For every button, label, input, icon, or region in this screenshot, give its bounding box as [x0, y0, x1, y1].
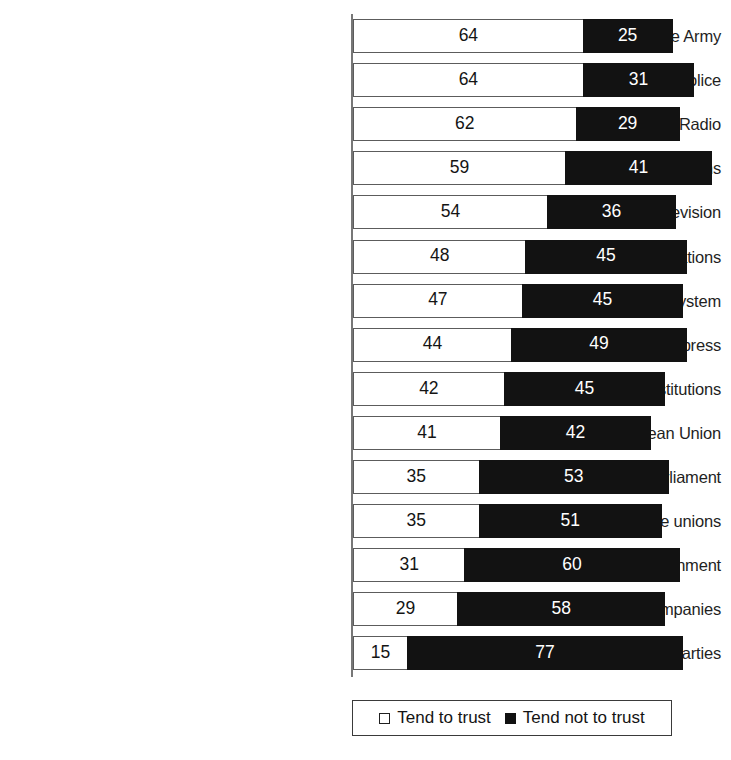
bar-value-tend-to-trust: 35	[407, 512, 426, 531]
chart-legend: Tend to trustTend not to trust	[352, 700, 672, 736]
bar-segment-tend-to-trust: 35	[353, 460, 479, 494]
bar-value-tend-to-trust: 48	[430, 247, 449, 266]
legend-label: Tend to trust	[397, 708, 491, 728]
legend-label: Tend not to trust	[523, 708, 645, 728]
bar-value-tend-not-to-trust: 25	[618, 27, 637, 46]
bar-segment-tend-to-trust: 59	[353, 151, 565, 185]
stacked-bar: 5436	[353, 195, 676, 229]
bar-value-tend-not-to-trust: 36	[602, 203, 621, 222]
bar-row: Charitable or voluntary organisations594…	[0, 151, 731, 195]
stacked-bar: 4245	[353, 372, 665, 406]
bar-segment-tend-not-to-trust: 31	[583, 63, 694, 97]
bar-segment-tend-to-trust: 47	[353, 284, 522, 318]
stacked-bar: 3160	[353, 548, 680, 582]
bar-row: The religiouos institutions4245	[0, 372, 731, 416]
stacked-bar: 6229	[353, 107, 680, 141]
bar-segment-tend-not-to-trust: 41	[565, 151, 712, 185]
filled-square-icon	[505, 713, 516, 724]
bar-segment-tend-not-to-trust: 45	[525, 240, 687, 274]
stacked-bar: 5941	[353, 151, 712, 185]
stacked-bar: 1577	[353, 636, 683, 670]
plot-area: The Army6425The Police6431Radio6229Chari…	[0, 0, 731, 690]
bar-value-tend-to-trust: 54	[441, 203, 460, 222]
open-square-icon	[379, 713, 390, 724]
bar-value-tend-not-to-trust: 45	[575, 380, 594, 399]
bar-value-tend-to-trust: 62	[455, 115, 474, 134]
bar-value-tend-not-to-trust: 53	[564, 468, 583, 487]
bar-value-tend-not-to-trust: 58	[551, 600, 570, 619]
bar-value-tend-to-trust: 29	[396, 600, 415, 619]
bar-segment-tend-not-to-trust: 53	[479, 460, 669, 494]
bar-row: Political parties1577	[0, 636, 731, 680]
stacked-bar: 6425	[353, 19, 673, 53]
bar-row: Radio6229	[0, 107, 731, 151]
bar-row: Big companies2958	[0, 592, 731, 636]
bar-value-tend-not-to-trust: 45	[593, 291, 612, 310]
bar-segment-tend-to-trust: 44	[353, 328, 511, 362]
bar-row: The United Nations4845	[0, 240, 731, 284]
bar-value-tend-to-trust: 42	[419, 380, 438, 399]
bar-value-tend-not-to-trust: 45	[596, 247, 615, 266]
bar-segment-tend-to-trust: 31	[353, 548, 464, 582]
bar-value-tend-not-to-trust: 29	[618, 115, 637, 134]
bar-value-tend-to-trust: 15	[371, 644, 390, 663]
bar-value-tend-not-to-trust: 51	[560, 512, 579, 531]
trust-in-institutions-chart: The Army6425The Police6431Radio6229Chari…	[0, 0, 731, 760]
stacked-bar: 6431	[353, 63, 694, 97]
bar-segment-tend-to-trust: 15	[353, 636, 407, 670]
legend-item: Tend to trust	[379, 708, 491, 728]
bar-segment-tend-not-to-trust: 60	[464, 548, 679, 582]
bar-row: The national government3160	[0, 548, 731, 592]
bar-row: Justice/The national legal system4745	[0, 284, 731, 328]
bar-segment-tend-not-to-trust: 42	[500, 416, 651, 450]
bar-value-tend-to-trust: 44	[423, 335, 442, 354]
bar-value-tend-not-to-trust: 60	[562, 556, 581, 575]
bar-segment-tend-not-to-trust: 45	[522, 284, 684, 318]
bar-segment-tend-not-to-trust: 45	[504, 372, 666, 406]
stacked-bar: 3553	[353, 460, 669, 494]
bar-row: Trade unions3551	[0, 504, 731, 548]
bar-segment-tend-to-trust: 35	[353, 504, 479, 538]
bar-segment-tend-to-trust: 48	[353, 240, 525, 274]
bar-row: The Police6431	[0, 63, 731, 107]
bar-segment-tend-not-to-trust: 36	[547, 195, 676, 229]
bar-value-tend-to-trust: 64	[459, 27, 478, 46]
bar-row: Television5436	[0, 195, 731, 239]
bar-segment-tend-to-trust: 54	[353, 195, 547, 229]
bar-segment-tend-not-to-trust: 29	[576, 107, 680, 141]
stacked-bar: 2958	[353, 592, 665, 626]
bar-value-tend-to-trust: 59	[450, 159, 469, 178]
bar-value-tend-to-trust: 47	[428, 291, 447, 310]
bar-row: The national parliament3553	[0, 460, 731, 504]
bar-segment-tend-to-trust: 64	[353, 63, 583, 97]
bar-segment-tend-to-trust: 62	[353, 107, 576, 141]
bar-segment-tend-to-trust: 29	[353, 592, 457, 626]
bar-value-tend-to-trust: 64	[459, 71, 478, 90]
bar-row: The Army6425	[0, 19, 731, 63]
stacked-bar: 3551	[353, 504, 662, 538]
bar-segment-tend-not-to-trust: 25	[583, 19, 673, 53]
stacked-bar: 4142	[353, 416, 651, 450]
bar-segment-tend-to-trust: 41	[353, 416, 500, 450]
bar-value-tend-not-to-trust: 41	[629, 159, 648, 178]
bar-value-tend-not-to-trust: 31	[629, 71, 648, 90]
bar-value-tend-to-trust: 41	[417, 424, 436, 443]
stacked-bar: 4845	[353, 240, 687, 274]
bar-value-tend-not-to-trust: 77	[535, 644, 554, 663]
bar-value-tend-not-to-trust: 49	[589, 335, 608, 354]
legend-item: Tend not to trust	[505, 708, 645, 728]
bar-value-tend-to-trust: 35	[407, 468, 426, 487]
bar-segment-tend-to-trust: 64	[353, 19, 583, 53]
bar-row: The European Union4142	[0, 416, 731, 460]
bar-segment-tend-not-to-trust: 77	[407, 636, 683, 670]
bar-value-tend-not-to-trust: 42	[566, 424, 585, 443]
bar-row: The press4449	[0, 328, 731, 372]
stacked-bar: 4449	[353, 328, 687, 362]
bar-segment-tend-not-to-trust: 51	[479, 504, 662, 538]
bar-segment-tend-to-trust: 42	[353, 372, 504, 406]
bar-segment-tend-not-to-trust: 49	[511, 328, 687, 362]
bar-segment-tend-not-to-trust: 58	[457, 592, 665, 626]
legend-items: Tend to trustTend not to trust	[379, 708, 644, 728]
stacked-bar: 4745	[353, 284, 683, 318]
bar-value-tend-to-trust: 31	[399, 556, 418, 575]
